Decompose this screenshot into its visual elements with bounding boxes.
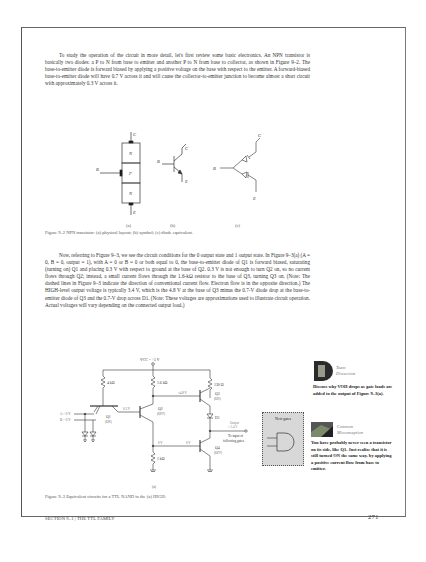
input-b-label: B = 0 V [60, 418, 71, 422]
v-q4-base-1: 0 V [158, 441, 163, 445]
following-gates-label: following gates [223, 439, 245, 443]
q4-label: Q4 [215, 446, 220, 450]
r1-label: 4 kΩ [107, 381, 115, 385]
paragraph-text: To study the operation of the circuit in… [45, 52, 310, 87]
q4-state: (OFF) [214, 451, 222, 455]
q3-state: (ON) [214, 397, 221, 401]
sidebar1-title-line2: Discussion [336, 371, 355, 377]
label-b-sym: B [157, 159, 160, 164]
figure-9-3-caption: Figure 9–3 Equivalent circuits for a TTL… [45, 494, 166, 499]
r4-label: 1 kΩ [157, 457, 165, 461]
label-n-top: N [128, 151, 133, 156]
next-gates-box: Next gates [262, 412, 304, 466]
output-value: ≈ 3.4 V [228, 425, 238, 429]
label-b-diode: B [213, 166, 216, 171]
v-q4-base-2: 0 V [186, 441, 191, 445]
label-b-sub: (b) [170, 223, 176, 228]
q3-label: Q3 [215, 392, 220, 396]
label-n-bottom: N [128, 191, 133, 196]
paragraph-circuit-conditions: Now, referring to Figure 9–3, we see the… [45, 252, 310, 309]
page-number: 271 [368, 513, 379, 521]
q1-state: (ON) [105, 420, 112, 424]
to-input-label: To input of [228, 434, 244, 438]
section-footer: SECTION 9–1 | THE TTL FAMILY [45, 516, 115, 521]
v-q3-base: ≈4.8 V [178, 391, 187, 395]
sidebar1-body: Discuss why VOH drops as gate loads are … [313, 384, 393, 397]
label-e-diode: E [252, 196, 256, 201]
q2-state: (OFF) [157, 412, 165, 416]
q1-label: Q1 [106, 415, 111, 419]
npn-physical-layout [100, 132, 140, 215]
diode-equivalent [220, 138, 260, 192]
v-q2-base: 0.3 V [123, 407, 131, 411]
label-e: E [132, 210, 136, 215]
vcc-label: VCC = +5 V [140, 358, 160, 362]
q2-label: Q2 [158, 407, 163, 411]
npn-symbol [162, 144, 186, 182]
paragraph-text: Now, referring to Figure 9–3, we see the… [45, 252, 310, 309]
d1-label: D1 [215, 416, 220, 420]
common-misconception-icon [311, 422, 333, 437]
team-discussion-icon [313, 360, 333, 382]
figure-9-2-caption: Figure 9–2 NPN transistor: (a) physical … [45, 230, 193, 235]
next-gates-label: Next gates [263, 417, 303, 421]
label-c-sym: C [185, 146, 189, 151]
r3-label: 130 Ω [214, 383, 224, 387]
label-p: P [128, 171, 132, 176]
paragraph-intro: To study the operation of the circuit in… [45, 52, 310, 87]
sidebar2-title-line2: Misconception [337, 430, 363, 436]
label-c-diode: C [258, 133, 262, 138]
label-e-sym: E [184, 179, 188, 184]
label-c: C [133, 132, 137, 137]
label-b: B [96, 167, 99, 172]
figure-9-2: C N P N B E (a) B C E (b) B C E (c) [90, 130, 330, 228]
figure-9-3-circuit: VCC = +5 V 4 kΩ 1.6 kΩ 130 Ω 1 kΩ A = 0 … [60, 356, 270, 491]
and-gate-icon [263, 427, 303, 457]
label-c-sub: (c) [235, 223, 240, 228]
sidebar2-body: You have probably never seen a transisto… [311, 440, 393, 473]
figure-3-sublabel: (a) [152, 485, 157, 489]
input-a-label: A = 0 V [60, 412, 71, 416]
label-a-sub: (a) [126, 223, 131, 228]
r2-label: 1.6 kΩ [157, 381, 168, 385]
